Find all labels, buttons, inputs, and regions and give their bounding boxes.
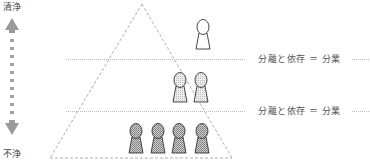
figure-bottom-3 xyxy=(172,124,186,154)
figure-bottom-2 xyxy=(151,124,165,154)
figure-top xyxy=(196,20,210,50)
figure-middle-2 xyxy=(194,73,208,103)
hierarchy-diagram xyxy=(0,0,370,167)
level-separators xyxy=(66,60,370,112)
figures-bottom xyxy=(129,124,209,154)
figure-bottom-4 xyxy=(195,124,209,154)
purity-axis-arrow xyxy=(5,18,19,135)
figure-bottom-1 xyxy=(129,124,143,154)
figure-middle-1 xyxy=(173,73,187,103)
